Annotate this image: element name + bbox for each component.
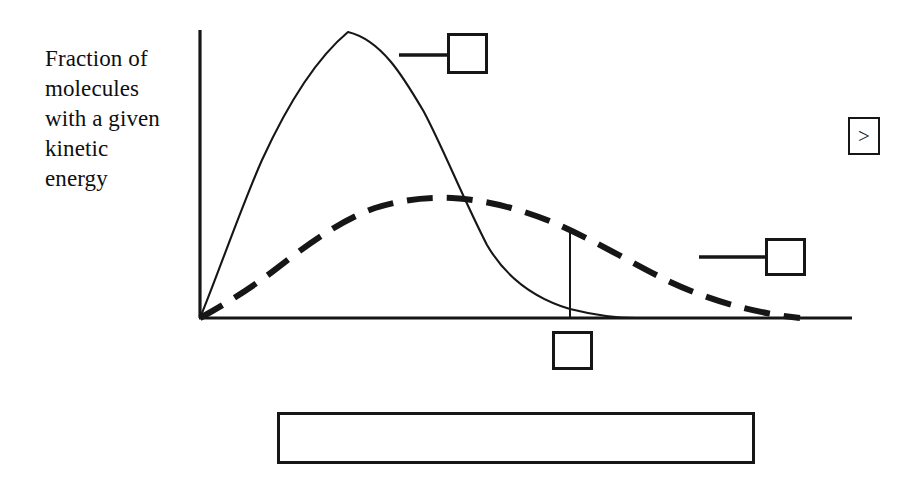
answer-bar-box[interactable] (277, 412, 755, 464)
comparison-symbol-box[interactable]: > (848, 117, 880, 155)
activation-energy-answer-box[interactable] (552, 331, 593, 370)
solid-curve-answer-box[interactable] (447, 33, 488, 74)
maxwell-boltzmann-diagram: Fraction of molecules with a given kinet… (0, 0, 921, 486)
dashed-curve-answer-box[interactable] (765, 238, 806, 276)
